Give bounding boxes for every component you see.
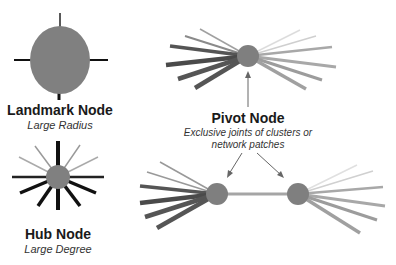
pivot-node-subtitle-line1: Exclusive joints of clusters or (168, 127, 328, 138)
landmark-node-graphic (14, 13, 108, 100)
hub-node-graphic (12, 141, 104, 210)
hub-node-title: Hub Node (0, 226, 116, 242)
pivot-node-title: Pivot Node (188, 110, 308, 126)
hub-node-subtitle: Large Degree (0, 243, 116, 255)
pivot-node-pair-graphic (140, 153, 385, 233)
landmark-node-subtitle: Large Radius (0, 119, 120, 131)
landmark-node-title: Landmark Node (0, 102, 120, 118)
pivot-node-subtitle-line2: network patches (168, 139, 328, 150)
pivot-node-top-graphic (166, 29, 336, 107)
